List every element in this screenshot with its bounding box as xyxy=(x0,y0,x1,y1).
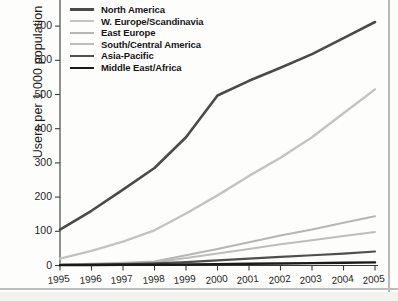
legend-color-swatch xyxy=(70,8,94,11)
x-axis-tick-label: 2004 xyxy=(331,272,354,285)
legend-label: W. Europe/Scandinavia xyxy=(101,16,203,27)
page-edge-bottom xyxy=(0,288,398,290)
series-line xyxy=(60,216,375,264)
y-axis-tick-label: 100 xyxy=(18,224,52,236)
legend-item: East Europe xyxy=(70,27,155,38)
series-line xyxy=(60,89,375,258)
y-axis-tick-label: 500 xyxy=(18,88,52,100)
x-axis-tick-label: 2001 xyxy=(236,272,259,285)
chart-page: Users per 1,000 population 0100200300400… xyxy=(0,0,398,301)
page-edge-bottom-shadow xyxy=(0,292,398,301)
y-axis-tick-label: 400 xyxy=(18,122,52,134)
y-axis-tick-label: 200 xyxy=(18,190,52,202)
x-axis-tick-label: 1999 xyxy=(173,272,196,285)
legend-label: Middle East/Africa xyxy=(101,62,182,73)
legend-item: W. Europe/Scandinavia xyxy=(70,16,203,27)
legend-label: South/Central America xyxy=(101,39,201,50)
x-axis-tick-label: 1996 xyxy=(79,272,102,285)
legend-label: North America xyxy=(101,4,165,15)
legend-item: Asia-Pacific xyxy=(70,50,154,61)
page-edge-right xyxy=(388,0,390,292)
x-axis-tick-label: 1995 xyxy=(47,272,70,285)
line-chart: Users per 1,000 population 0100200300400… xyxy=(0,0,390,292)
legend-color-swatch xyxy=(70,20,94,22)
y-axis-tick-label: 600 xyxy=(18,53,52,65)
legend-label: Asia-Pacific xyxy=(101,50,154,61)
legend-color-swatch xyxy=(70,43,94,45)
legend-color-swatch xyxy=(70,67,94,69)
x-axis-tick-label: 2003 xyxy=(299,272,322,285)
legend-color-swatch xyxy=(70,32,94,34)
x-axis-tick-label: 2002 xyxy=(268,272,291,285)
y-axis-tick-label: 700 xyxy=(18,19,52,31)
y-axis-tick-label: 300 xyxy=(18,156,52,168)
x-axis-tick-label: 1998 xyxy=(142,272,165,285)
legend-color-swatch xyxy=(70,55,94,57)
legend-item: South/Central America xyxy=(70,39,201,50)
x-axis-tick-label: 1997 xyxy=(110,272,133,285)
x-axis-tick-label: 2000 xyxy=(205,272,228,285)
y-axis-tick-label: 0 xyxy=(18,259,52,271)
legend-label: East Europe xyxy=(101,27,155,38)
legend-item: North America xyxy=(70,4,165,15)
x-axis-tick-label: 2005 xyxy=(362,272,385,285)
legend-item: Middle East/Africa xyxy=(70,62,182,73)
